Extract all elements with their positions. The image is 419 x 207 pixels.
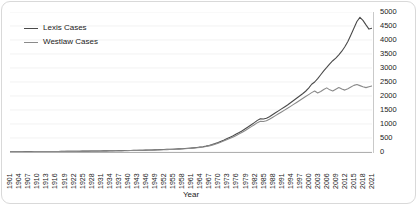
x-axis-ticks: 1901190419071910191319161919192219251928… — [10, 153, 372, 189]
x-tick-label: 2015 — [350, 173, 357, 189]
legend-item-lexis-cases: Lexis Cases — [24, 22, 98, 34]
y-tick-label: 5000 — [380, 8, 397, 16]
x-tick-label: 1955 — [169, 173, 176, 189]
legend-swatch-lexis-cases — [24, 28, 38, 29]
x-tick-label: 2012 — [341, 173, 348, 189]
x-tick-label: 1985 — [260, 173, 267, 189]
y-tick-label: 1500 — [380, 106, 397, 114]
x-tick-label: 1973 — [223, 173, 230, 189]
x-tick-label: 1916 — [51, 173, 58, 189]
x-tick-label: 2009 — [332, 173, 339, 189]
x-tick-label: 2003 — [314, 173, 321, 189]
legend-label-lexis-cases: Lexis Cases — [43, 23, 87, 33]
y-tick-label: 4000 — [380, 36, 397, 44]
y-tick-label: 1000 — [380, 120, 397, 128]
y-axis-line — [373, 12, 374, 153]
x-tick-label: 1994 — [287, 173, 294, 189]
x-tick-label: 1934 — [106, 173, 113, 189]
x-tick-label: 1946 — [142, 173, 149, 189]
x-tick-label: 2000 — [305, 173, 312, 189]
y-tick-label: 4500 — [380, 22, 397, 30]
x-tick-label: 1925 — [79, 173, 86, 189]
y-tick-label: 500 — [380, 134, 393, 142]
x-tick-label: 2018 — [359, 173, 366, 189]
x-tick-label: 1961 — [187, 173, 194, 189]
x-tick-label: 1901 — [6, 173, 13, 189]
x-tick-label: 1937 — [115, 173, 122, 189]
x-tick-label: 1913 — [42, 173, 49, 189]
y-tick-label: 3500 — [380, 50, 397, 58]
x-tick-label: 1931 — [97, 173, 104, 189]
x-axis-title: Year — [10, 190, 372, 199]
x-tick-label: 1976 — [232, 173, 239, 189]
y-axis-ticks: 0500100015002000250030003500400045005000 — [376, 12, 416, 152]
y-tick-label: 3000 — [380, 64, 397, 72]
legend-label-westlaw-cases: Westlaw Cases — [43, 37, 98, 47]
x-tick-label: 1940 — [124, 173, 131, 189]
x-tick-label: 1928 — [88, 173, 95, 189]
y-tick-label: 2500 — [380, 78, 397, 86]
legend-swatch-westlaw-cases — [24, 42, 38, 43]
x-tick-label: 1967 — [205, 173, 212, 189]
chart-card: Lexis Cases Westlaw Cases 05001000150020… — [1, 1, 416, 204]
x-tick-label: 1949 — [151, 173, 158, 189]
x-tick-label: 1958 — [178, 173, 185, 189]
x-tick-label: 1910 — [33, 173, 40, 189]
x-tick-label: 1982 — [251, 173, 258, 189]
x-tick-label: 1919 — [61, 173, 68, 189]
x-tick-label: 1979 — [242, 173, 249, 189]
x-tick-label: 1907 — [24, 173, 31, 189]
x-tick-label: 1991 — [278, 173, 285, 189]
x-tick-label: 1970 — [214, 173, 221, 189]
x-tick-label: 1988 — [269, 173, 276, 189]
x-tick-label: 1952 — [160, 173, 167, 189]
y-tick-label: 0 — [380, 148, 384, 156]
x-tick-label: 2006 — [323, 173, 330, 189]
x-tick-label: 1922 — [70, 173, 77, 189]
x-tick-label: 1997 — [296, 173, 303, 189]
x-tick-label: 2021 — [368, 173, 375, 189]
x-tick-label: 1904 — [15, 173, 22, 189]
x-tick-label: 1964 — [196, 173, 203, 189]
legend-item-westlaw-cases: Westlaw Cases — [24, 36, 98, 48]
chart-legend: Lexis Cases Westlaw Cases — [24, 22, 98, 50]
series-line-westlaw-cases — [10, 85, 372, 152]
x-tick-label: 1943 — [133, 173, 140, 189]
y-tick-label: 2000 — [380, 92, 397, 100]
